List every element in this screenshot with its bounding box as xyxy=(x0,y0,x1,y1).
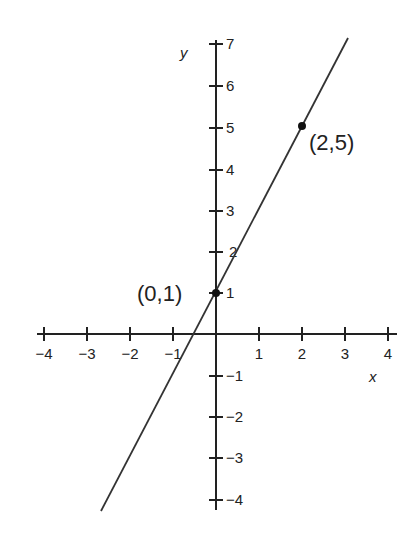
y-tick-label: 4 xyxy=(226,161,234,178)
y-tick-label: −3 xyxy=(226,449,243,466)
coordinate-plane: −4 −3 −2 −1 1 2 3 4 7 6 5 4 3 2 1 −1 −2 … xyxy=(0,0,420,535)
point-label-2-5: (2,5) xyxy=(309,130,354,155)
y-tick-label: −2 xyxy=(226,408,243,425)
y-tick-label: −4 xyxy=(226,491,243,508)
y-tick-label: 7 xyxy=(226,35,234,52)
y-tick-label: 5 xyxy=(226,119,234,136)
point-0-1 xyxy=(212,289,220,297)
x-tick-label: 3 xyxy=(341,345,349,362)
y-tick-label: 1 xyxy=(226,284,234,301)
x-tick-label: 2 xyxy=(298,345,306,362)
x-tick-label: −2 xyxy=(121,345,138,362)
y-tick-label: 3 xyxy=(226,202,234,219)
point-label-0-1: (0,1) xyxy=(137,281,182,306)
y-axis-label: y xyxy=(179,44,189,61)
y-tick-label: −1 xyxy=(226,367,243,384)
x-tick-label: −1 xyxy=(164,345,181,362)
y-tick-label: 6 xyxy=(226,77,234,94)
line-series xyxy=(101,38,348,511)
point-2-5 xyxy=(298,122,306,130)
x-tick-label: −3 xyxy=(78,345,95,362)
x-tick-label: 4 xyxy=(384,345,392,362)
x-axis-label: x xyxy=(368,368,377,385)
x-tick-label: −4 xyxy=(35,345,52,362)
x-tick-label: 1 xyxy=(255,345,263,362)
